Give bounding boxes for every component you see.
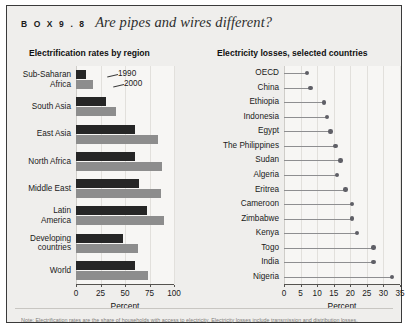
axis-tick bbox=[284, 285, 285, 287]
dot-row: OECD bbox=[284, 73, 400, 74]
bar-row: World bbox=[76, 261, 174, 280]
dot-stem bbox=[284, 73, 307, 74]
box-header: B O X 9 . 8 Are pipes and wires differen… bbox=[21, 14, 391, 36]
right-plot-area: OECDChinaEthiopiaIndonesiaEgyptThe Phili… bbox=[284, 66, 400, 284]
axis-tick bbox=[383, 285, 384, 287]
dot-row: Togo bbox=[284, 248, 400, 249]
chart-electricity-losses: Electricity losses, selected countries O… bbox=[211, 38, 401, 324]
bar-1990 bbox=[76, 125, 135, 134]
dot-category-label: China bbox=[189, 83, 279, 92]
axis-tick bbox=[76, 285, 77, 287]
left-axis-title: Percent bbox=[111, 301, 140, 311]
axis-tick bbox=[301, 285, 302, 287]
dot-category-label: The Philippines bbox=[189, 141, 279, 150]
bar-row: Developingcountries bbox=[76, 234, 174, 253]
axis-tick-label: 25 bbox=[96, 289, 105, 298]
legend-label: 1990 bbox=[118, 69, 136, 78]
right-chart-title: Electricity losses, selected countries bbox=[217, 48, 367, 58]
data-point bbox=[371, 245, 375, 249]
data-point bbox=[328, 129, 332, 133]
dot-row: Zimbabwe bbox=[284, 219, 400, 220]
dot-row: Eritrea bbox=[284, 190, 400, 191]
bar-category-label: North Africa bbox=[0, 157, 71, 167]
axis-tick bbox=[174, 285, 175, 287]
bar-1990 bbox=[76, 152, 135, 161]
dot-category-label: Kenya bbox=[189, 228, 279, 237]
bar-category-label: Developingcountries bbox=[0, 234, 71, 253]
dot-stem bbox=[284, 102, 324, 103]
box-title: Are pipes and wires different? bbox=[95, 14, 272, 31]
axis-tick bbox=[334, 285, 335, 287]
legend-label: 2000 bbox=[124, 79, 142, 88]
axis-tick-label: 10 bbox=[313, 289, 322, 298]
data-point bbox=[333, 144, 337, 148]
dot-category-label: Indonesia bbox=[189, 112, 279, 121]
data-point bbox=[335, 173, 339, 177]
bar-2000 bbox=[76, 271, 148, 280]
bar-1990 bbox=[76, 261, 135, 270]
bar-2000 bbox=[76, 244, 138, 253]
bar-row: LatinAmerica bbox=[76, 206, 174, 225]
dot-row: Ethiopia bbox=[284, 102, 400, 103]
dot-stem bbox=[284, 277, 392, 278]
right-axis-title: Percent bbox=[328, 301, 357, 311]
bar-2000 bbox=[76, 216, 164, 225]
bar-1990 bbox=[76, 234, 123, 243]
data-point bbox=[390, 275, 394, 279]
axis-tick-label: 5 bbox=[298, 289, 303, 298]
dot-category-label: OECD bbox=[189, 68, 279, 77]
axis-tick bbox=[125, 285, 126, 287]
axis-tick bbox=[317, 285, 318, 287]
dot-category-label: Cameroon bbox=[189, 199, 279, 208]
box-number-label: B O X 9 . 8 bbox=[21, 19, 86, 29]
data-point bbox=[350, 216, 354, 220]
dot-row: Sudan bbox=[284, 160, 400, 161]
dot-category-label: Nigeria bbox=[189, 272, 279, 281]
dot-stem bbox=[284, 233, 357, 234]
gridline bbox=[174, 66, 175, 284]
bar-category-label: LatinAmerica bbox=[0, 206, 71, 225]
bar-category-label: Middle East bbox=[0, 184, 71, 194]
axis-tick bbox=[367, 285, 368, 287]
box-panel: B O X 9 . 8 Are pipes and wires differen… bbox=[6, 5, 402, 323]
footer-divider bbox=[15, 308, 393, 309]
dot-row: Egypt bbox=[284, 131, 400, 132]
bar-1990 bbox=[76, 206, 147, 215]
data-point bbox=[308, 86, 312, 90]
left-plot-area: Sub-SaharanAfrica19902000South AsiaEast … bbox=[76, 66, 174, 284]
data-point bbox=[305, 71, 309, 75]
axis-tick bbox=[150, 285, 151, 287]
legend-leader-line bbox=[113, 84, 124, 87]
axis-tick-label: 15 bbox=[329, 289, 338, 298]
data-point bbox=[355, 231, 359, 235]
dot-category-label: India bbox=[189, 257, 279, 266]
left-chart-title: Electrification rates by region bbox=[29, 48, 150, 58]
legend-leader-line bbox=[107, 74, 118, 77]
dot-stem bbox=[284, 204, 352, 205]
legend-item-2000: 2000 bbox=[124, 79, 142, 88]
dot-category-label: Ethiopia bbox=[189, 97, 279, 106]
bar-category-label: South Asia bbox=[0, 102, 71, 112]
bar-row: Middle East bbox=[76, 179, 174, 198]
axis-tick-label: 20 bbox=[346, 289, 355, 298]
data-point bbox=[325, 115, 329, 119]
bar-1990 bbox=[76, 97, 106, 106]
axis-tick-label: 75 bbox=[145, 289, 154, 298]
bar-category-label: East Asia bbox=[0, 129, 71, 139]
dot-row: Nigeria bbox=[284, 277, 400, 278]
bar-1990 bbox=[76, 179, 139, 188]
dot-category-label: Egypt bbox=[189, 126, 279, 135]
dot-stem bbox=[284, 175, 337, 176]
bar-row: North Africa bbox=[76, 152, 174, 171]
dot-category-label: Togo bbox=[189, 243, 279, 252]
dot-stem bbox=[284, 146, 335, 147]
legend-item-1990: 1990 bbox=[118, 69, 136, 78]
data-point bbox=[322, 100, 326, 104]
dot-row: The Philippines bbox=[284, 146, 400, 147]
dot-row: Algeria bbox=[284, 175, 400, 176]
bar-2000 bbox=[76, 135, 158, 144]
bar-row: Sub-SaharanAfrica19902000 bbox=[76, 70, 174, 89]
gridline bbox=[400, 66, 401, 284]
dot-category-label: Eritrea bbox=[189, 185, 279, 194]
bar-2000 bbox=[76, 162, 162, 171]
